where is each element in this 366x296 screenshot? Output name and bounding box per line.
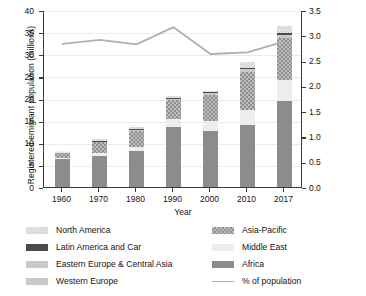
legend-item-label: Latin America and Car [56, 243, 141, 252]
y-axis-left-tick [39, 188, 43, 189]
legend-swatch-icon [26, 261, 48, 268]
legend-item[interactable]: Africa [212, 256, 362, 273]
y-axis-left-tick-label: 10 [0, 139, 34, 148]
y-axis-left-tick-label: 40 [0, 7, 34, 16]
x-axis-title: Year [0, 207, 366, 217]
x-axis-tick-label: 2017 [262, 194, 306, 204]
legend-item-label: North America [56, 226, 110, 235]
legend-swatch-icon [212, 244, 234, 251]
legend-column-left: North AmericaLatin America and CarEaster… [26, 222, 208, 290]
x-axis-tick [209, 188, 210, 192]
legend-item-label: Africa [242, 260, 264, 269]
y-axis-right-tick-label: 1.0 [309, 133, 349, 142]
y-axis-left-tick-label: 35 [0, 29, 34, 38]
x-axis-tick [135, 188, 136, 192]
y-axis-right-tick [302, 188, 306, 189]
legend-item-label: Asia-Pacific [242, 226, 287, 235]
legend-item-label: % of population [242, 277, 301, 286]
legend-swatch-icon [26, 244, 48, 251]
legend-swatch-icon [212, 227, 234, 234]
x-axis-tick [172, 188, 173, 192]
legend-swatch-icon [212, 261, 234, 268]
legend-item-label: Middle East [242, 243, 287, 252]
legend-item-label: Eastern Europe & Central Asia [56, 260, 173, 269]
line-path [63, 27, 285, 54]
chart-container: Registered emigrant population (millions… [0, 0, 366, 296]
y-axis-right-tick-label: 3.0 [309, 32, 349, 41]
legend-item-label: Western Europe [56, 277, 118, 286]
legend-line-swatch-icon [212, 281, 234, 282]
y-axis-left-tick-label: 30 [0, 51, 34, 60]
chart-legend: North AmericaLatin America and CarEaster… [26, 222, 362, 294]
y-axis-right-tick-label: 2.0 [309, 82, 349, 91]
legend-column-right: Asia-PacificMiddle EastAfrica% of popula… [212, 222, 362, 290]
legend-item[interactable]: Middle East [212, 239, 362, 256]
y-axis-left-tick-label: 15 [0, 117, 34, 126]
legend-item[interactable]: North America [26, 222, 208, 239]
y-axis-left-tick-label: 25 [0, 73, 34, 82]
legend-item[interactable]: Latin America and Car [26, 239, 208, 256]
y-axis-right-tick-label: 0.0 [309, 184, 349, 193]
plot-area [43, 11, 302, 188]
line-series-layer [44, 11, 301, 187]
legend-item[interactable]: Eastern Europe & Central Asia [26, 256, 208, 273]
y-axis-left-tick-label: 5 [0, 161, 34, 170]
y-axis-right-tick-label: 3.5 [309, 7, 349, 16]
y-axis-left-tick-label: 0 [0, 184, 34, 193]
legend-item[interactable]: % of population [212, 273, 362, 290]
y-axis-right-tick-label: 0.5 [309, 158, 349, 167]
x-axis-tick [98, 188, 99, 192]
legend-swatch-icon [26, 278, 48, 285]
y-axis-right-tick-label: 1.5 [309, 108, 349, 117]
y-axis-right-tick-label: 2.5 [309, 57, 349, 66]
legend-item[interactable]: Asia-Pacific [212, 222, 362, 239]
legend-item[interactable]: Western Europe [26, 273, 208, 290]
x-axis-tick [283, 188, 284, 192]
y-axis-left-tick-label: 20 [0, 95, 34, 104]
percent-of-population-line [44, 11, 303, 188]
x-axis-tick [246, 188, 247, 192]
legend-swatch-icon [26, 227, 48, 234]
x-axis-tick [61, 188, 62, 192]
